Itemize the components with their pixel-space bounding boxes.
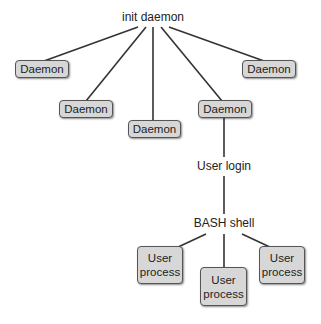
user-login-label: User login [194, 159, 254, 173]
init-daemon-label: init daemon [120, 10, 186, 24]
daemon-node-4: Daemon [198, 100, 252, 118]
process-line1: User [148, 252, 172, 264]
bash-shell-label: BASH shell [193, 216, 255, 230]
daemon-node-5: Daemon [242, 60, 296, 78]
process-tree-diagram: init daemon Daemon Daemon Daemon Daemon … [0, 0, 321, 324]
daemon-node-3: Daemon [128, 120, 181, 138]
user-process-node-1: Userprocess [137, 246, 183, 284]
process-line2: process [140, 266, 180, 278]
user-process-node-2: Userprocess [200, 267, 247, 306]
process-line1: User [270, 252, 294, 264]
daemon-node-1: Daemon [15, 60, 69, 78]
user-process-node-3: Userprocess [259, 246, 305, 284]
process-line2: process [262, 266, 302, 278]
daemon-node-2: Daemon [59, 100, 113, 118]
process-line1: User [211, 274, 235, 286]
process-line2: process [203, 288, 243, 300]
